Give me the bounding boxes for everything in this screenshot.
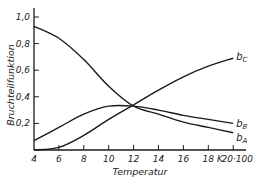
series-lines (34, 26, 233, 150)
x-tick-label: 4 (31, 154, 37, 164)
y-tick-label: 0,4 (16, 92, 31, 102)
series-label-b-c: bC (236, 51, 247, 64)
chart: 0,20,40,60,81,0 468101214161820·100 bAbB… (0, 0, 259, 187)
y-tick-label: 0,8 (16, 39, 31, 49)
series-label-b-a: bA (236, 132, 247, 145)
x-tick-label: 20·100 (221, 154, 253, 164)
series-labels: bAbBbC (236, 51, 247, 144)
x-tick-label: 10 (103, 154, 115, 164)
y-tick-label: 0,6 (16, 65, 31, 75)
x-tick-label: 12 (128, 154, 140, 164)
y-tick-label: 1,0 (16, 12, 31, 22)
y-axis-title: Bruchteilfunktion (5, 44, 16, 126)
x-tick-label: 18 (203, 154, 215, 164)
series-line-b-b (34, 105, 233, 140)
x-tick-label: 6 (56, 154, 62, 164)
series-line-b-c (34, 58, 233, 150)
x-tick-label: 16 (178, 154, 190, 164)
y-ticks: 0,20,40,60,81,0 (16, 12, 39, 128)
series-line-b-a (34, 26, 233, 132)
series-label-b-b: bB (236, 118, 247, 131)
x-tick-label: 14 (153, 154, 165, 164)
x-tick-label: 8 (81, 154, 87, 164)
x-axis-title: Temperatur (113, 166, 169, 177)
y-tick-label: 0,2 (16, 118, 31, 128)
